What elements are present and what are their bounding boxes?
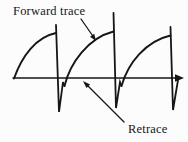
- retrace-1: [56, 25, 65, 112]
- waveform-svg: [0, 0, 188, 142]
- forward-trace-callout-shaft: [81, 19, 93, 36]
- retrace-label: Retrace: [128, 123, 168, 135]
- retrace-2: [114, 13, 122, 108]
- forward-trace-1: [14, 33, 56, 79]
- forward-trace-label: Forward trace: [13, 5, 85, 17]
- figure-canvas: Forward trace Retrace: [0, 0, 188, 142]
- time-axis-arrowhead: [175, 74, 184, 82]
- retrace-3: [171, 27, 179, 110]
- forward-trace-callout-head: [90, 34, 96, 41]
